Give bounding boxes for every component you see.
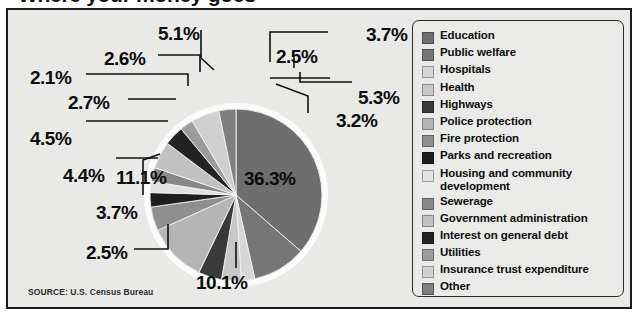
slice-percentage-label: 5.3% bbox=[358, 87, 399, 109]
legend-item[interactable]: Fire protection bbox=[422, 132, 617, 148]
legend-item[interactable]: Highways bbox=[422, 98, 617, 114]
legend-item-label: Hospitals bbox=[440, 63, 491, 77]
legend-item-label: Education bbox=[440, 29, 495, 43]
legend-item-label: Sewerage bbox=[440, 195, 493, 209]
leader-line bbox=[158, 55, 200, 72]
slice-percentage-label: 2.1% bbox=[30, 67, 71, 89]
legend-item[interactable]: Education bbox=[422, 29, 617, 45]
legend-swatch-icon bbox=[422, 118, 434, 130]
slice-percentage-label: 3.2% bbox=[336, 110, 377, 132]
legend-swatch-icon bbox=[422, 66, 434, 78]
legend-swatch-icon bbox=[422, 215, 434, 227]
legend-item-label: Fire protection bbox=[440, 132, 519, 146]
leader-lines bbox=[8, 10, 408, 307]
slice-percentage-label: 5.1% bbox=[158, 23, 199, 45]
legend-item[interactable]: Public welfare bbox=[422, 46, 617, 62]
slice-percentage-label: 2.6% bbox=[104, 48, 145, 70]
leader-line bbox=[134, 224, 168, 249]
chart-panel: SOURCE: U.S. Census Bureau 5.1%2.6%2.1%2… bbox=[6, 8, 632, 309]
legend-item[interactable]: Utilities bbox=[422, 246, 617, 262]
legend-item[interactable]: Parks and recreation bbox=[422, 149, 617, 165]
legend-swatch-icon bbox=[422, 249, 434, 261]
slice-percentage-label: 3.7% bbox=[366, 24, 407, 46]
legend-item[interactable]: Housing and communitydevelopment bbox=[422, 167, 617, 194]
legend: EducationPublic welfareHospitalsHealthHi… bbox=[412, 20, 624, 297]
slice-percentage-label: 4.5% bbox=[30, 128, 71, 150]
legend-item[interactable]: Hospitals bbox=[422, 63, 617, 79]
legend-item-label: Utilities bbox=[440, 246, 481, 260]
legend-item-label: Police protection bbox=[440, 115, 532, 129]
legend-swatch-icon bbox=[422, 84, 434, 96]
slice-percentage-label: 2.7% bbox=[68, 92, 109, 114]
source-note: SOURCE: U.S. Census Bureau bbox=[28, 287, 153, 297]
slice-percentage-label: 2.5% bbox=[86, 242, 127, 264]
legend-swatch-icon bbox=[422, 101, 434, 113]
pie-graphic bbox=[8, 10, 408, 307]
legend-item-label: Health bbox=[440, 81, 475, 95]
legend-swatch-icon bbox=[422, 232, 434, 244]
legend-item-label: Interest on general debt bbox=[440, 229, 568, 243]
slice-percentage-label: 36.3% bbox=[244, 168, 295, 190]
legend-item[interactable]: Police protection bbox=[422, 115, 617, 131]
legend-item[interactable]: Other bbox=[422, 280, 617, 296]
legend-item-label: Government administration bbox=[440, 212, 588, 226]
legend-item[interactable]: Government administration bbox=[422, 212, 617, 228]
leader-line bbox=[276, 84, 308, 113]
legend-item[interactable]: Health bbox=[422, 81, 617, 97]
legend-swatch-icon bbox=[422, 283, 434, 295]
pie-chart-figure: Where your money goes SOURCE: U.S. Censu… bbox=[0, 0, 638, 317]
legend-item-label: Parks and recreation bbox=[440, 149, 552, 163]
legend-item-label-line2: development bbox=[440, 180, 572, 194]
legend-swatch-icon bbox=[422, 170, 434, 182]
legend-item-label: Housing and communitydevelopment bbox=[440, 167, 572, 194]
legend-item-label: Public welfare bbox=[440, 46, 516, 60]
legend-swatch-icon bbox=[422, 198, 434, 210]
legend-swatch-icon bbox=[422, 32, 434, 44]
legend-swatch-icon bbox=[422, 152, 434, 164]
leader-line bbox=[300, 72, 352, 82]
leader-line bbox=[201, 30, 214, 70]
chart-area: SOURCE: U.S. Census Bureau 5.1%2.6%2.1%2… bbox=[8, 10, 408, 307]
legend-item[interactable]: Interest on general debt bbox=[422, 229, 617, 245]
legend-item-label: Insurance trust expenditure bbox=[440, 263, 589, 277]
page-title: Where your money goes bbox=[18, 0, 256, 7]
slice-percentage-label: 10.1% bbox=[196, 272, 247, 294]
legend-swatch-icon bbox=[422, 49, 434, 61]
legend-item[interactable]: Insurance trust expenditure bbox=[422, 263, 617, 279]
legend-item-label: Highways bbox=[440, 98, 493, 112]
slice-percentage-label: 11.1% bbox=[116, 167, 166, 189]
figure-title-cutoff: Where your money goes bbox=[0, 0, 638, 7]
legend-item-label: Other bbox=[440, 280, 470, 294]
slice-percentage-label: 2.5% bbox=[276, 46, 317, 68]
legend-swatch-icon bbox=[422, 266, 434, 278]
leader-line bbox=[86, 74, 188, 86]
slice-percentage-label: 4.4% bbox=[63, 165, 104, 187]
legend-swatch-icon bbox=[422, 135, 434, 147]
legend-item[interactable]: Sewerage bbox=[422, 195, 617, 211]
slice-percentage-label: 3.7% bbox=[96, 202, 137, 224]
